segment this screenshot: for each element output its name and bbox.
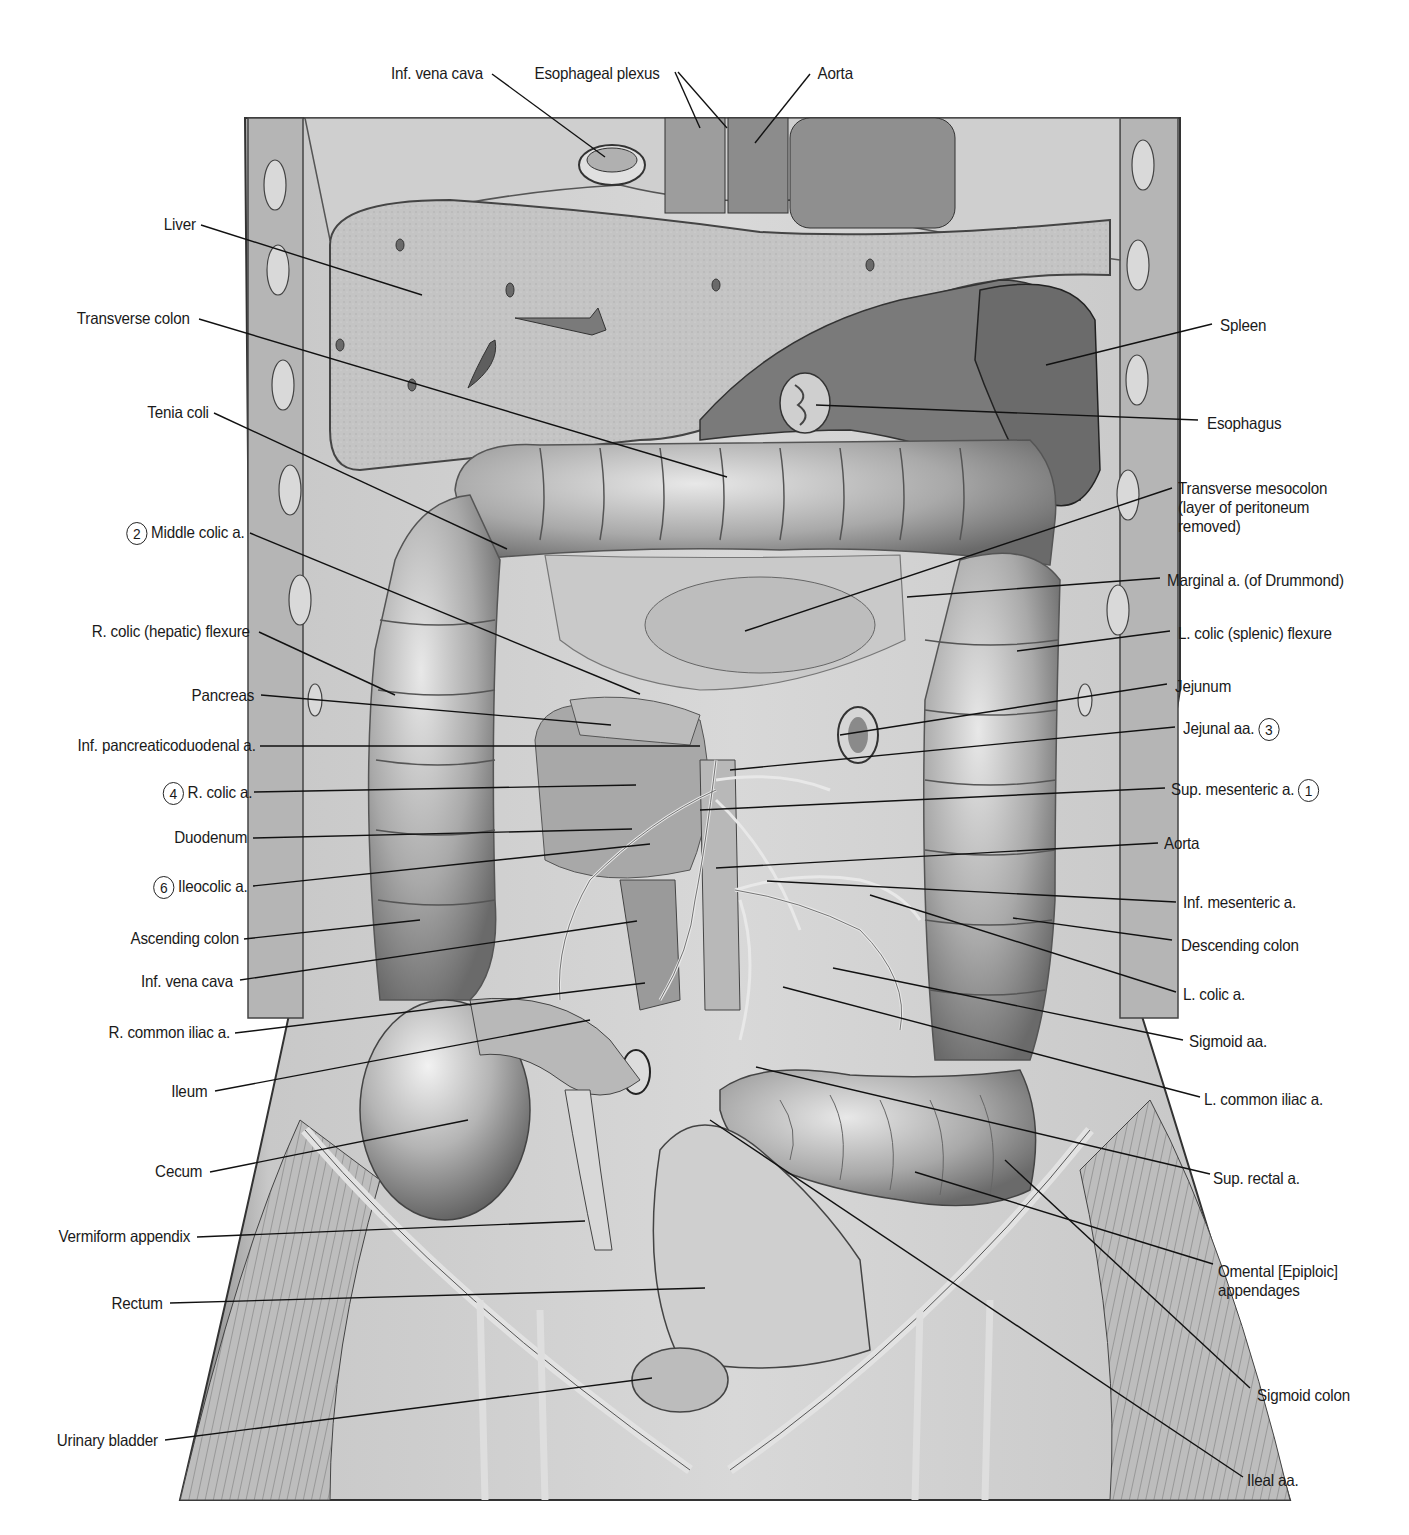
label-text: Sup. mesenteric a. [1171, 780, 1294, 798]
label-text: L. common iliac a. [1204, 1090, 1323, 1108]
label-text: Marginal a. (of Drummond) [1167, 571, 1344, 589]
label-inf-pancreaticoduodenal-a: Inf. pancreaticoduodenal a. [78, 736, 256, 755]
label-text: Sigmoid aa. [1189, 1032, 1267, 1050]
label-ileocolic-a: 6Ileocolic a. [150, 876, 248, 899]
label-text: Tenia coli [148, 403, 209, 421]
aorta-column [728, 118, 788, 213]
heart-region [790, 118, 955, 228]
label-l-common-iliac-a: L. common iliac a. [1204, 1090, 1323, 1109]
label-sup-mesenteric-a: Sup. mesenteric a.1 [1171, 779, 1323, 802]
label-text: Duodenum [174, 828, 247, 846]
anatomy-figure: Inf. vena cavaEsophageal plexusAorta Liv… [0, 0, 1409, 1535]
aorta-abdominal [700, 760, 740, 1010]
label-text: Esophageal plexus [534, 64, 659, 82]
label-transverse-colon: Transverse colon [77, 309, 190, 328]
label-inf-mesenteric-a: Inf. mesenteric a. [1183, 893, 1296, 912]
label-duodenum: Duodenum [174, 828, 247, 847]
mesocolon-fold [645, 577, 875, 673]
label-text: Cecum [155, 1162, 202, 1180]
label-text: Jejunum [1175, 677, 1231, 695]
esophagus-cut [780, 373, 830, 433]
label-text: R. colic (hepatic) flexure [92, 622, 250, 640]
label-text: Pancreas [191, 686, 254, 704]
label-vermiform-appendix: Vermiform appendix [58, 1227, 190, 1246]
label-esophagus: Esophagus [1207, 414, 1281, 433]
label-urinary-bladder: Urinary bladder [57, 1431, 158, 1450]
label-aorta: Aorta [1164, 834, 1199, 853]
label-text: Descending colon [1181, 936, 1299, 954]
label-esophageal-plexus: Esophageal plexus [534, 64, 659, 83]
label-aorta-top: Aorta [818, 64, 853, 83]
label-text: Urinary bladder [57, 1431, 158, 1449]
label-text: L. colic a. [1183, 985, 1245, 1003]
label-omental-appendages: Omental [Epiploic]appendages [1218, 1262, 1338, 1300]
label-cecum: Cecum [155, 1162, 202, 1181]
label-text: Vermiform appendix [58, 1227, 190, 1245]
label-text: Transverse colon [77, 309, 190, 327]
label-l-colic-flexure: L. colic (splenic) flexure [1178, 624, 1332, 643]
label-pancreas: Pancreas [191, 686, 254, 705]
label-text: appendages [1218, 1281, 1300, 1299]
descending-colon [924, 553, 1060, 1060]
label-text: R. common iliac a. [108, 1023, 230, 1041]
number-badge: 1 [1298, 779, 1319, 802]
label-text: R. colic a. [187, 783, 252, 801]
label-text: Rectum [112, 1294, 163, 1312]
label-marginal-a: Marginal a. (of Drummond) [1167, 571, 1344, 590]
label-sigmoid-aa: Sigmoid aa. [1189, 1032, 1267, 1051]
label-inf-vena-cava-top: Inf. vena cava [391, 64, 483, 83]
label-text: Ileocolic a. [178, 877, 248, 895]
label-text: (layer of peritoneum [1178, 498, 1309, 516]
label-text: removed) [1178, 517, 1241, 535]
number-badge: 6 [154, 876, 175, 899]
label-liver: Liver [164, 215, 196, 234]
label-text: Jejunal aa. [1183, 719, 1254, 737]
label-jejunal-aa: Jejunal aa.3 [1183, 718, 1283, 741]
label-middle-colic-a: 2Middle colic a. [123, 522, 245, 545]
label-sigmoid-colon: Sigmoid colon [1257, 1386, 1350, 1405]
label-text: Inf. pancreaticoduodenal a. [78, 736, 256, 754]
number-badge: 4 [163, 782, 184, 805]
label-transverse-mesocolon: Transverse mesocolon(layer of peritoneum… [1178, 479, 1327, 536]
label-text: L. colic (splenic) flexure [1178, 624, 1332, 642]
label-text: Middle colic a. [152, 523, 245, 541]
label-text: Liver [164, 215, 196, 233]
label-r-common-iliac-a: R. common iliac a. [108, 1023, 230, 1042]
label-text: Ileum [171, 1082, 207, 1100]
label-ileum: Ileum [171, 1082, 207, 1101]
label-sup-rectal-a: Sup. rectal a. [1213, 1169, 1300, 1188]
label-text: Inf. vena cava [391, 64, 483, 82]
label-ascending-colon: Ascending colon [130, 929, 239, 948]
label-text: Spleen [1220, 316, 1266, 334]
number-badge: 3 [1258, 718, 1279, 741]
label-rectum: Rectum [112, 1294, 163, 1313]
label-descending-colon: Descending colon [1181, 936, 1299, 955]
label-text: Omental [Epiploic] [1218, 1262, 1338, 1280]
urinary-bladder [632, 1348, 728, 1412]
label-inf-vena-cava: Inf. vena cava [141, 972, 233, 991]
label-text: Aorta [1164, 834, 1199, 852]
label-text: Ileal aa. [1247, 1471, 1299, 1489]
label-text: Inf. mesenteric a. [1183, 893, 1296, 911]
transverse-colon [455, 440, 1056, 565]
label-text: Transverse mesocolon [1178, 479, 1327, 497]
label-r-colic-flexure: R. colic (hepatic) flexure [92, 622, 250, 641]
abdominal-illustration [0, 0, 1409, 1535]
label-tenia-coli: Tenia coli [148, 403, 209, 422]
number-badge: 2 [127, 522, 148, 545]
label-text: Aorta [818, 64, 853, 82]
esophagus-column [665, 118, 725, 213]
label-text: Inf. vena cava [141, 972, 233, 990]
label-text: Sup. rectal a. [1213, 1169, 1300, 1187]
label-jejunum: Jejunum [1175, 677, 1231, 696]
label-ileal-aa: Ileal aa. [1247, 1471, 1299, 1490]
label-l-colic-a: L. colic a. [1183, 985, 1245, 1004]
label-text: Sigmoid colon [1257, 1386, 1350, 1404]
label-r-colic-a: 4R. colic a. [159, 782, 252, 805]
label-text: Esophagus [1207, 414, 1281, 432]
label-text: Ascending colon [130, 929, 239, 947]
label-spleen: Spleen [1220, 316, 1266, 335]
